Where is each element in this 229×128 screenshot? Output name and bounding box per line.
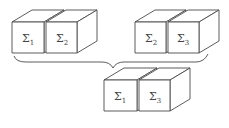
- cube-combination-diagram: Σ1 Σ2 Σ2 Σ3 Σ1 Σ3: [0, 0, 229, 128]
- brace-connector: [14, 54, 208, 68]
